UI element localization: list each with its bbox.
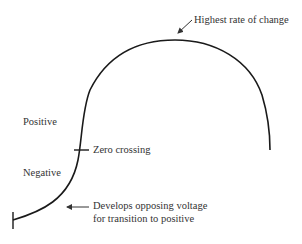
develops-label-line1: Develops opposing voltage [93,200,208,211]
develops-label-line2: for transition to positive [93,213,195,224]
peak-arrow [178,20,192,33]
peak-label: Highest rate of change [194,14,289,25]
positive-label: Positive [23,116,57,127]
waveform-curve [13,40,270,220]
waveform-diagram: Highest rate of change Positive Zero cro… [0,0,302,244]
zero-crossing-label: Zero crossing [93,144,151,155]
negative-label: Negative [23,167,61,178]
